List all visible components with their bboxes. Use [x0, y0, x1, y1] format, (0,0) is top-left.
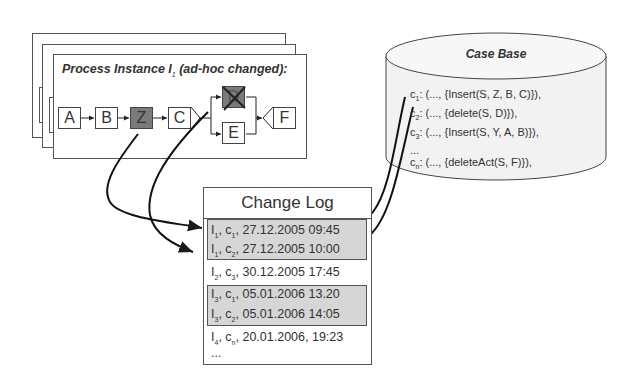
change-log: Change Log I1, c1, 27.12.2005 09:45 I1, … [203, 187, 372, 365]
change-log-title: Change Log [204, 188, 371, 219]
case-item: cn: (..., {deleteAct(S, F)}), [410, 155, 541, 174]
log-entry: I2, c3, 30.12.2005 17:45 [211, 264, 340, 286]
log-ellipsis: ... [211, 348, 221, 358]
deleted-cross-icon [223, 87, 245, 110]
case-item: c1: (..., {Insert(S, Z, B, C)}), [410, 87, 541, 106]
case-base-list: c1: (..., {Insert(S, Z, B, C)}), c2: (..… [410, 87, 541, 174]
case-base-title: Case Base [386, 47, 606, 61]
log-entry: I3, c1, 05.01.2006 13.20 [211, 286, 340, 308]
log-entry: I4, cn, 20.01.2006, 19:23 [211, 329, 343, 351]
case-item: c3: (..., {Insert(S, Y, A, B)}), [410, 125, 541, 144]
case-item: c2: (..., {delete(S, D)}), [410, 106, 541, 125]
case-ellipsis: ... [410, 145, 541, 155]
log-entry: I1, c2, 27.12.2005 10:00 [211, 241, 340, 263]
log-entry: I3, c2, 05.01.2006 14:05 [211, 306, 340, 328]
